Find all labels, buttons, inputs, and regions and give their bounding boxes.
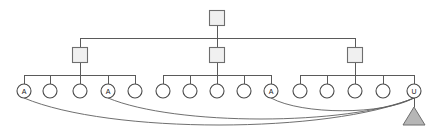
leaf-12-circle[interactable] xyxy=(320,84,334,98)
node-leaf-7[interactable] xyxy=(183,84,197,98)
leaf-14-circle[interactable] xyxy=(376,84,390,98)
node-leaf-9[interactable] xyxy=(237,84,251,98)
node-leaf-15[interactable]: U xyxy=(407,84,421,98)
leaf-3-circle[interactable] xyxy=(73,84,87,98)
node-leaf-10[interactable]: A xyxy=(264,84,278,98)
leaf-7-circle[interactable] xyxy=(183,84,197,98)
leaf-6-circle[interactable] xyxy=(156,84,170,98)
node-leaf-3[interactable] xyxy=(73,84,87,98)
leaf-13-circle[interactable] xyxy=(348,84,362,98)
arc-1 xyxy=(24,98,414,125)
tree-canvas: AAAU xyxy=(0,0,436,132)
arc-3 xyxy=(271,98,414,111)
node-terminal-triangle[interactable] xyxy=(403,107,425,125)
node-leaf-12[interactable] xyxy=(320,84,334,98)
leaf-5-circle[interactable] xyxy=(128,84,142,98)
node-mid-2[interactable] xyxy=(210,48,225,63)
nodes-layer: AAAU xyxy=(17,11,425,126)
terminal-triangle-shape[interactable] xyxy=(403,107,425,125)
arc-2 xyxy=(108,98,414,119)
node-leaf-1[interactable]: A xyxy=(17,84,31,98)
node-leaf-8[interactable] xyxy=(210,84,224,98)
pedigree-diagram: AAAU xyxy=(0,0,436,132)
root-square[interactable] xyxy=(210,11,225,26)
node-leaf-5[interactable] xyxy=(128,84,142,98)
node-leaf-6[interactable] xyxy=(156,84,170,98)
mid-1-square[interactable] xyxy=(73,48,88,63)
leaf-15-circle[interactable] xyxy=(407,84,421,98)
arcs-layer xyxy=(24,98,414,125)
node-leaf-13[interactable] xyxy=(348,84,362,98)
leaf-9-circle[interactable] xyxy=(237,84,251,98)
leaf-4-circle[interactable] xyxy=(101,84,115,98)
node-mid-3[interactable] xyxy=(348,48,363,63)
leaf-10-circle[interactable] xyxy=(264,84,278,98)
node-mid-1[interactable] xyxy=(73,48,88,63)
node-root[interactable] xyxy=(210,11,225,26)
mid-2-square[interactable] xyxy=(210,48,225,63)
leaf-11-circle[interactable] xyxy=(293,84,307,98)
node-leaf-2[interactable] xyxy=(43,84,57,98)
node-leaf-4[interactable]: A xyxy=(101,84,115,98)
leaf-8-circle[interactable] xyxy=(210,84,224,98)
leaf-2-circle[interactable] xyxy=(43,84,57,98)
leaf-1-circle[interactable] xyxy=(17,84,31,98)
node-leaf-11[interactable] xyxy=(293,84,307,98)
mid-3-square[interactable] xyxy=(348,48,363,63)
node-leaf-14[interactable] xyxy=(376,84,390,98)
